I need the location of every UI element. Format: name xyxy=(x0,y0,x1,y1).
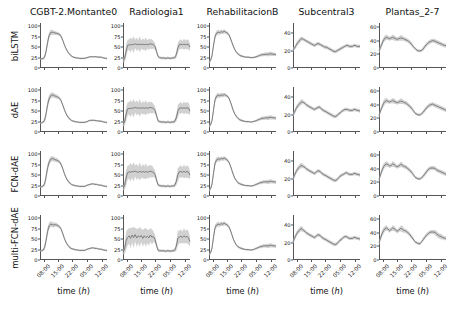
uncertainty-band xyxy=(209,156,276,191)
uncertainty-band xyxy=(209,92,276,127)
x-tick-mark xyxy=(311,196,312,198)
panel-bilstm-1: 0255075100 xyxy=(123,23,190,68)
panel-dae-3: 02040 xyxy=(293,87,360,132)
x-tick-mark xyxy=(397,68,398,70)
uncertainty-band xyxy=(123,99,190,126)
uncertainty-band xyxy=(123,227,190,254)
x-tick-mark xyxy=(397,132,398,134)
series-plot xyxy=(293,151,360,196)
series-plot xyxy=(293,215,360,260)
series-plot xyxy=(379,151,446,196)
x-tick-mark xyxy=(170,196,171,198)
x-axis-label-suffix: ) xyxy=(426,286,429,296)
x-tick-label: 05:00 xyxy=(417,263,433,279)
x-axis-label-4: time (h) xyxy=(365,286,460,296)
x-tick-mark xyxy=(87,260,88,262)
series-plot xyxy=(123,23,190,68)
x-tick-mark xyxy=(102,196,103,198)
x-tick-mark xyxy=(340,260,341,262)
panel-fcn-dae-2: 0255075100 xyxy=(209,151,276,196)
x-tick-mark xyxy=(325,132,326,134)
x-tick-mark xyxy=(355,260,356,262)
x-tick-mark xyxy=(72,68,73,70)
mean-line xyxy=(40,224,107,251)
figure-panel-grid: biLSTMdAEFCN-dAEmulti-FCN-dAECGBT-2.Mont… xyxy=(0,0,469,335)
x-tick-mark xyxy=(102,68,103,70)
x-tick-mark xyxy=(58,132,59,134)
x-tick-mark xyxy=(72,132,73,134)
x-tick-mark xyxy=(397,196,398,198)
x-tick-mark xyxy=(213,260,214,262)
x-tick-mark xyxy=(127,260,128,262)
x-tick-mark xyxy=(127,132,128,134)
x-tick-mark xyxy=(256,132,257,134)
uncertainty-band xyxy=(379,98,446,118)
x-tick-mark xyxy=(441,68,442,70)
x-tick-label: 05:00 xyxy=(331,263,347,279)
x-tick-label: 12:00 xyxy=(433,263,449,279)
series-plot xyxy=(209,215,276,260)
x-tick-mark xyxy=(72,196,73,198)
x-tick-label: 15:00 xyxy=(133,263,149,279)
panel-fcn-dae-1: 0255075100 xyxy=(123,151,190,196)
panel-bilstm-2: 0255075100 xyxy=(209,23,276,68)
x-tick-mark xyxy=(227,196,228,198)
panel-bilstm-4: 0204060 xyxy=(379,23,446,68)
x-tick-mark xyxy=(155,196,156,198)
x-tick-label: 08:00 xyxy=(119,263,135,279)
series-plot xyxy=(40,23,107,68)
x-tick-label: 15:00 xyxy=(389,263,405,279)
x-tick-mark xyxy=(44,196,45,198)
panel-fcn-dae-4: 0204060 xyxy=(379,151,446,196)
series-plot xyxy=(293,87,360,132)
x-tick-mark xyxy=(58,260,59,262)
x-tick-mark xyxy=(325,68,326,70)
x-tick-mark xyxy=(87,196,88,198)
panel-dae-4: 0204060 xyxy=(379,87,446,132)
x-tick-mark xyxy=(127,196,128,198)
x-tick-mark xyxy=(102,132,103,134)
x-tick-mark xyxy=(441,260,442,262)
series-plot xyxy=(123,87,190,132)
series-plot xyxy=(209,87,276,132)
panel-dae-2: 0255075100 xyxy=(209,87,276,132)
x-tick-mark xyxy=(426,68,427,70)
x-tick-label: 12:00 xyxy=(347,263,363,279)
x-tick-label: 05:00 xyxy=(247,263,263,279)
x-tick-mark xyxy=(383,68,384,70)
uncertainty-band xyxy=(379,35,446,53)
x-tick-mark xyxy=(213,196,214,198)
series-plot xyxy=(209,23,276,68)
x-tick-mark xyxy=(44,68,45,70)
x-tick-mark xyxy=(325,260,326,262)
x-axis-label-prefix: time ( xyxy=(226,286,250,296)
x-tick-mark xyxy=(185,132,186,134)
x-tick-mark xyxy=(213,132,214,134)
uncertainty-band xyxy=(123,36,190,62)
x-tick-mark xyxy=(227,132,228,134)
series-plot xyxy=(40,215,107,260)
panel-bilstm-3: 02040 xyxy=(293,23,360,68)
x-tick-mark xyxy=(271,132,272,134)
x-tick-mark xyxy=(141,132,142,134)
uncertainty-band xyxy=(209,221,276,255)
uncertainty-band xyxy=(293,226,360,246)
series-plot xyxy=(123,215,190,260)
x-tick-mark xyxy=(441,132,442,134)
row-label-text: biLSTM xyxy=(8,30,22,60)
x-tick-mark xyxy=(311,68,312,70)
x-tick-label: 08:00 xyxy=(375,263,391,279)
x-tick-mark xyxy=(271,68,272,70)
x-axis-label-3: time (h) xyxy=(279,286,374,296)
panel-multi-fcn-dae-4: 020406008:0015:0022:0005:0012:00 xyxy=(379,215,446,260)
x-tick-mark xyxy=(340,196,341,198)
x-tick-mark xyxy=(185,68,186,70)
x-tick-mark xyxy=(227,68,228,70)
x-tick-mark xyxy=(155,68,156,70)
x-tick-mark xyxy=(411,260,412,262)
x-tick-mark xyxy=(213,68,214,70)
x-tick-mark xyxy=(241,260,242,262)
panel-multi-fcn-dae-1: 025507510008:0015:0022:0005:0012:00 xyxy=(123,215,190,260)
x-tick-mark xyxy=(44,132,45,134)
panel-fcn-dae-0: 0255075100 xyxy=(40,151,107,196)
